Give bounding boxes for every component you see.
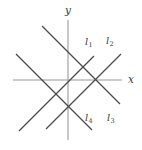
line-label-l3-subscript: 3 (110, 117, 114, 125)
line-label-l4: l4 (85, 113, 92, 123)
line-label-l3: l3 (107, 113, 114, 123)
line-label-l1: l1 (85, 37, 92, 47)
line-label-l4-subscript: 4 (88, 117, 92, 125)
figure-canvas (0, 0, 142, 150)
line-label-l2-subscript: 2 (109, 40, 113, 48)
line-label-l1-subscript: 1 (88, 41, 92, 49)
line-label-l2: l2 (106, 36, 113, 46)
x-axis-label: x (128, 74, 134, 85)
y-axis-label: y (65, 5, 71, 16)
geometry-figure: y x l1 l2 l3 l4 (0, 0, 142, 150)
